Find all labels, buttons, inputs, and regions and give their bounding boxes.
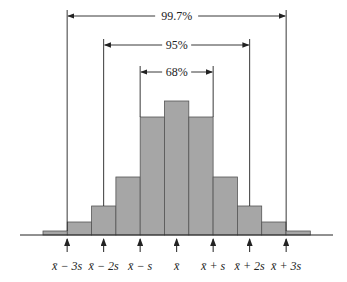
histogram-bar [92, 206, 116, 235]
tick-label: x̄ + 2s [234, 259, 265, 273]
tick-label: x̄ + s [200, 259, 225, 273]
tick-label: x̄ + 3s [270, 259, 301, 273]
histogram-chart: 68%95%99.7% x̄ − 3sx̄ − 2sx̄ − sx̄x̄ + s… [0, 0, 347, 282]
histogram-bar [67, 222, 91, 235]
histogram-bar [140, 117, 164, 235]
tick-labels: x̄ − 3sx̄ − 2sx̄ − sx̄x̄ + sx̄ + 2sx̄ + … [51, 259, 301, 273]
histogram-bars [43, 101, 310, 235]
histogram-bar [237, 206, 261, 235]
histogram-bar [189, 117, 213, 235]
tick-label: x̄ [173, 259, 180, 273]
histogram-bar [43, 231, 67, 235]
interval-label: 68% [166, 65, 188, 79]
tick-label: x̄ − 3s [51, 259, 82, 273]
tick-arrows [67, 239, 286, 252]
histogram-bar [213, 177, 237, 235]
interval-brackets: 68%95%99.7% [68, 9, 285, 79]
interval-label: 99.7% [161, 9, 192, 23]
histogram-bar [116, 177, 140, 235]
histogram-bar [286, 231, 310, 235]
histogram-bar [262, 222, 286, 235]
histogram-bar [165, 101, 189, 235]
tick-label: x̄ − s [127, 259, 152, 273]
tick-label: x̄ − 2s [88, 259, 119, 273]
interval-label: 95% [166, 38, 188, 52]
